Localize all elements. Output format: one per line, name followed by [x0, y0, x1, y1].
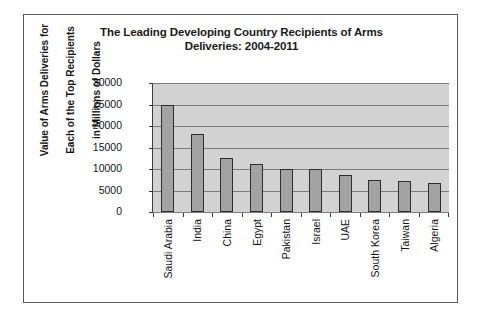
bar[interactable]: [368, 180, 381, 212]
x-label-slot: China: [212, 219, 242, 297]
x-label-slot: Egypt: [242, 219, 272, 297]
x-label-slot: Pakistan: [271, 219, 301, 297]
x-tick-mark: [271, 213, 301, 217]
bar[interactable]: [161, 105, 174, 212]
x-tick-label: UAE: [339, 219, 351, 241]
bar-series: [153, 83, 449, 212]
x-tick-mark: [360, 213, 390, 217]
y-tick-label: 0: [52, 205, 122, 217]
bar[interactable]: [339, 175, 352, 212]
x-label-slot: Algeria: [419, 219, 449, 297]
x-axis-ticks: [153, 213, 449, 217]
x-tick-label: Algeria: [428, 219, 440, 252]
bar-slot: [153, 83, 183, 212]
x-tick-label: Saudi Arabia: [162, 219, 174, 279]
bar-slot: [242, 83, 272, 212]
bar[interactable]: [428, 183, 441, 212]
x-label-slot: South Korea: [360, 219, 390, 297]
bar[interactable]: [398, 181, 411, 212]
plot-wrap: 300002500020000150001000050000 Saudi Ara…: [129, 75, 455, 295]
bar-slot: [331, 83, 361, 212]
bar-slot: [390, 83, 420, 212]
bar-slot: [212, 83, 242, 212]
x-tick-mark: [212, 213, 242, 217]
x-label-slot: Saudi Arabia: [153, 219, 183, 297]
x-label-slot: India: [183, 219, 213, 297]
bar-slot: [271, 83, 301, 212]
x-axis-labels: Saudi ArabiaIndiaChinaEgyptPakistanIsrae…: [153, 219, 449, 297]
x-tick-mark: [242, 213, 272, 217]
bar[interactable]: [220, 158, 233, 212]
bar-slot: [419, 83, 449, 212]
x-tick-mark: [419, 213, 450, 217]
bar[interactable]: [280, 169, 293, 212]
x-tick-label: Egypt: [251, 219, 263, 246]
y-tick-label: 15000: [52, 141, 122, 153]
x-tick-mark: [301, 213, 331, 217]
bar[interactable]: [191, 134, 204, 212]
bar[interactable]: [250, 164, 263, 212]
y-tick-label: 20000: [52, 119, 122, 131]
y-tick-label: 25000: [52, 98, 122, 110]
x-label-slot: Israel: [301, 219, 331, 297]
y-axis-title-line-1: Value of Arms Deliveries for: [38, 24, 51, 156]
bar[interactable]: [309, 169, 322, 212]
x-tick-mark: [389, 213, 419, 217]
x-tick-mark: [153, 213, 183, 217]
x-tick-label: China: [221, 219, 233, 246]
y-tick-label: 5000: [52, 184, 122, 196]
x-label-slot: Taiwan: [390, 219, 420, 297]
y-axis-title-line-3: in Millions of Dollars: [90, 24, 103, 156]
y-tick-label: 30000: [52, 76, 122, 88]
x-tick-label: Taiwan: [399, 219, 411, 252]
bar-slot: [183, 83, 213, 212]
x-tick-label: South Korea: [369, 219, 381, 277]
figure-frame: The Leading Developing Country Recipient…: [23, 14, 458, 303]
bar-slot: [301, 83, 331, 212]
y-tick-label: 10000: [52, 162, 122, 174]
x-label-slot: UAE: [331, 219, 361, 297]
x-tick-label: Pakistan: [280, 219, 292, 259]
x-tick-label: Israel: [310, 219, 322, 245]
x-tick-label: India: [191, 219, 203, 242]
x-tick-mark: [183, 213, 213, 217]
x-tick-mark: [330, 213, 360, 217]
bar-slot: [360, 83, 390, 212]
y-axis-title-line-2: Each of the Top Recipients: [64, 24, 77, 156]
